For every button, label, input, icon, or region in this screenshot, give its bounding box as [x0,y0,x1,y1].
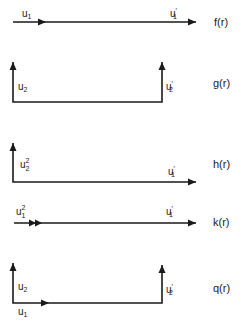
arrow-up-icon [10,143,17,151]
function-label-q: q(r) [213,282,230,294]
arrow-up-icon [159,62,166,70]
label-u1: u1 [18,306,28,318]
label-u1-squared: u21 [16,204,26,219]
label-u1-prime: u′1 [166,205,174,218]
diagram-f: u1 u′1 f(r) [13,7,228,28]
propagator-diagrams: u1 u′1 f(r) u2 u′2 g(r) u22 u′1 h(r) u21… [0,0,242,321]
arrow-right-icon [188,19,196,26]
arrow-up-icon [10,263,17,271]
function-label-f: f(r) [214,16,228,28]
label-u1-prime: u′1 [170,7,178,20]
label-u2-squared: u22 [20,157,30,172]
arrow-up-icon [10,62,17,70]
diagram-g: u2 u′2 g(r) [10,62,231,102]
arrow-right-icon [38,19,46,26]
double-arrow-right-icon [29,220,36,227]
diagram-q: u2 u1 u′2 q(r) [10,263,231,318]
diagram-k: u21 u′1 k(r) [14,204,230,228]
arrow-right-icon [188,179,196,186]
label-u2-prime: u′2 [166,80,174,93]
function-label-g: g(r) [213,77,230,89]
arrow-right-icon [188,220,196,227]
label-u2-prime: u′2 [166,283,174,296]
label-u2: u2 [18,281,28,293]
arrow-right-icon [41,300,49,307]
q-path [13,263,162,303]
label-u1-prime: u′1 [168,165,176,178]
diagram-h: u22 u′1 h(r) [10,143,231,186]
function-label-h: h(r) [213,158,230,170]
double-arrow-right-icon [35,220,42,227]
g-path [13,62,162,102]
arrow-up-icon [159,265,166,273]
label-u1: u1 [22,8,32,20]
label-u2: u2 [18,81,28,93]
function-label-k: k(r) [213,216,230,228]
